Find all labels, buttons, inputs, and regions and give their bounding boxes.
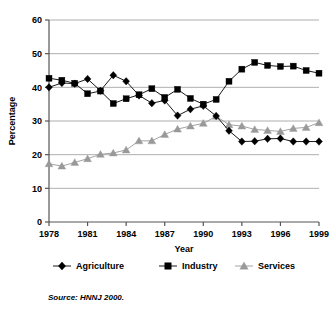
marker-triangle: [84, 155, 92, 162]
x-tick-label: 1990: [193, 229, 213, 239]
legend-label: Services: [258, 261, 295, 271]
legend-item-agriculture[interactable]: Agriculture: [53, 261, 124, 271]
marker-diamond: [290, 138, 297, 146]
marker-square: [303, 68, 309, 74]
marker-triangle: [225, 121, 233, 128]
x-tick-label: 1984: [116, 229, 136, 239]
x-tick-label: 1999: [309, 229, 329, 239]
x-axis-title: Year: [174, 244, 194, 254]
marker-triangle: [161, 131, 169, 138]
legend-label: Industry: [182, 261, 218, 271]
y-tick-label: 20: [32, 150, 42, 160]
line-chart-canvas: 0102030405060197819811984198719901993199…: [0, 0, 335, 313]
marker-square: [123, 96, 129, 102]
marker-square: [110, 100, 116, 106]
x-axis-ticks: 19781981198419871990199319961999: [39, 222, 329, 239]
chart-legend: AgricultureIndustryServices: [53, 261, 295, 271]
marker-square: [252, 59, 258, 65]
legend-item-services[interactable]: Services: [235, 261, 295, 271]
x-tick-label: 1993: [232, 229, 252, 239]
marker-square: [187, 95, 193, 101]
x-tick-label: 1996: [270, 229, 290, 239]
marker-diamond: [251, 137, 258, 145]
y-tick-label: 60: [32, 15, 42, 25]
y-tick-label: 0: [37, 217, 42, 227]
marker-diamond: [58, 262, 65, 270]
marker-square: [277, 63, 283, 69]
marker-square: [316, 70, 322, 76]
y-axis-ticks: 0102030405060: [32, 15, 49, 227]
series-industry: [46, 59, 322, 107]
marker-diamond: [277, 135, 284, 143]
marker-diamond: [148, 99, 155, 107]
marker-square: [165, 263, 171, 269]
marker-square: [213, 96, 219, 102]
marker-triangle: [45, 160, 53, 167]
marker-square: [85, 91, 91, 97]
y-tick-label: 50: [32, 49, 42, 59]
legend-item-industry[interactable]: Industry: [159, 261, 218, 271]
marker-triangle: [122, 146, 130, 153]
marker-square: [290, 63, 296, 69]
marker-square: [175, 86, 181, 92]
marker-square: [265, 62, 271, 68]
x-tick-label: 1987: [155, 229, 175, 239]
y-tick-label: 40: [32, 83, 42, 93]
marker-diamond: [238, 138, 245, 146]
marker-diamond: [46, 84, 53, 92]
y-tick-label: 30: [32, 116, 42, 126]
x-tick-label: 1981: [78, 229, 98, 239]
source-note: Source: HNNJ 2000.: [48, 293, 124, 302]
gridlines: [49, 20, 319, 188]
marker-diamond: [303, 138, 310, 146]
marker-square: [149, 86, 155, 92]
marker-square: [46, 75, 52, 81]
marker-square: [239, 66, 245, 72]
marker-triangle: [315, 119, 323, 126]
marker-diamond: [316, 138, 323, 146]
marker-triangle: [302, 124, 310, 131]
chart-figure: 0102030405060197819811984198719901993199…: [0, 0, 335, 313]
marker-diamond: [187, 105, 194, 113]
y-tick-label: 10: [32, 184, 42, 194]
y-axis-title: Percentage: [7, 97, 17, 146]
legend-label: Agriculture: [76, 261, 124, 271]
marker-square: [226, 78, 232, 84]
marker-diamond: [264, 135, 271, 143]
x-tick-label: 1978: [39, 229, 59, 239]
